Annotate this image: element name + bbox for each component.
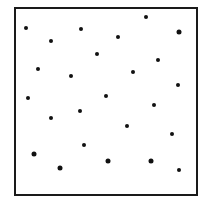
dot — [156, 58, 160, 62]
dot — [170, 132, 174, 136]
dot — [106, 159, 111, 164]
dot — [149, 159, 154, 164]
dot — [49, 39, 53, 43]
dot — [49, 116, 53, 120]
dot — [24, 26, 28, 30]
dot — [26, 96, 30, 100]
dot — [104, 94, 108, 98]
dot — [36, 67, 40, 71]
dot — [69, 74, 73, 78]
dot — [79, 27, 83, 31]
dot — [131, 70, 135, 74]
dot — [177, 30, 182, 35]
dot — [144, 15, 148, 19]
square-frame — [14, 7, 198, 196]
dot — [176, 83, 180, 87]
dot — [177, 168, 181, 172]
dot — [95, 52, 99, 56]
dot — [116, 35, 120, 39]
dot — [58, 166, 63, 171]
dot — [78, 109, 82, 113]
dot — [82, 143, 86, 147]
dot — [152, 103, 156, 107]
dot — [32, 152, 37, 157]
dot — [125, 124, 129, 128]
